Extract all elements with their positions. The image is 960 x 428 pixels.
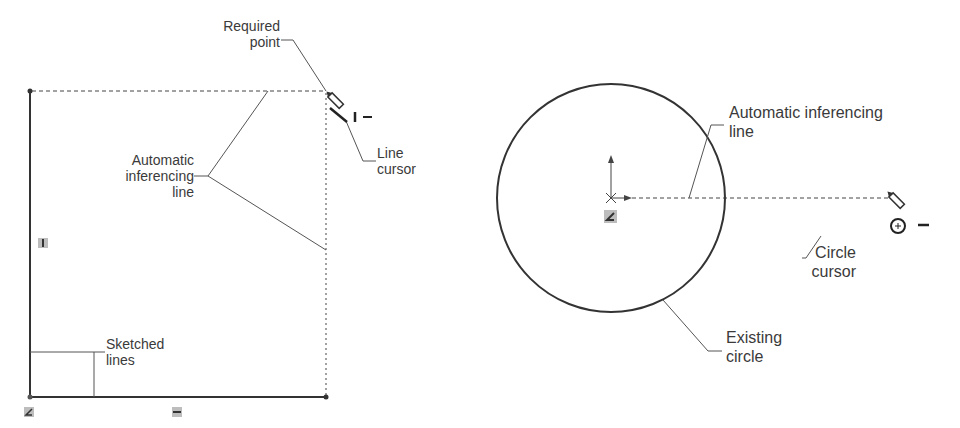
existing-circle-label: Existing circle: [726, 328, 782, 366]
origin-point: [28, 395, 33, 400]
sketched-lines-label: Sketched lines: [106, 336, 164, 368]
label-line: Circle: [778, 243, 856, 262]
label-line: line: [729, 122, 883, 141]
leader-existing-circle: [663, 300, 722, 351]
label-line: Line: [377, 145, 416, 161]
pencil-icon: [885, 189, 904, 208]
label-line: Existing: [726, 328, 782, 347]
y-arrow-icon: [608, 155, 614, 163]
leader-auto-inferencing-bottom: [208, 176, 326, 250]
leader-required-point: [281, 40, 326, 91]
circle-cursor-label: Circle cursor: [778, 243, 856, 281]
vertical-relation-badge-icon: [38, 238, 48, 248]
label-line: Automatic inferencing: [729, 103, 883, 122]
pencil-icon: [324, 89, 343, 108]
left-sketch: [28, 40, 377, 400]
label-line: Required: [208, 18, 280, 34]
line-cursor-icon: [330, 108, 347, 122]
endpoint-right: [324, 395, 329, 400]
label-line: inferencing: [100, 168, 194, 184]
coincident-origin-badge-icon: [604, 210, 617, 223]
label-line: point: [208, 34, 280, 50]
endpoint-top: [28, 89, 33, 94]
sketch-diagram: Required point Line cursor Automatic inf…: [0, 0, 960, 428]
label-line: Automatic: [100, 152, 194, 168]
label-line: circle: [726, 347, 782, 366]
required-point-label: Required point: [208, 18, 280, 50]
label-line: cursor: [377, 161, 416, 177]
coincident-origin-badge-icon: [24, 407, 34, 417]
leader-auto-inferencing-top: [194, 91, 268, 176]
label-line: lines: [106, 352, 164, 368]
leader-line-cursor: [346, 121, 376, 161]
auto-inferencing-label: Automatic inferencing line: [100, 152, 194, 200]
line-cursor-label: Line cursor: [377, 145, 416, 177]
label-line: cursor: [778, 262, 856, 281]
x-arrow-icon: [624, 195, 632, 201]
label-line: Sketched: [106, 336, 164, 352]
horizontal-relation-badge-icon: [172, 407, 182, 417]
label-line: line: [100, 184, 194, 200]
auto-inferencing-label: Automatic inferencing line: [729, 103, 883, 141]
